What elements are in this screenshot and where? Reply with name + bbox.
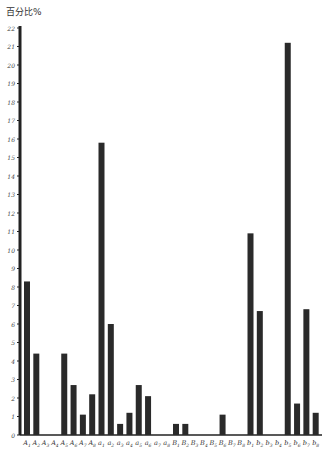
y-tick-label: 5 [11, 339, 15, 346]
x-tick-label: B3 [190, 439, 199, 448]
x-tick-label: B8 [236, 439, 245, 448]
y-tick-label: 16 [7, 136, 15, 143]
y-tick-label: 13 [7, 191, 15, 198]
y-tick-label: 15 [7, 154, 15, 161]
x-tick-label: a8 [163, 439, 170, 448]
bar-A6 [71, 385, 77, 435]
y-tick-label: 7 [11, 302, 15, 309]
x-tick-label: a4 [126, 439, 133, 448]
bar-a4 [126, 413, 132, 435]
x-tick-label: a2 [107, 439, 114, 448]
x-tick-label: A4 [50, 439, 59, 448]
bar-B6 [220, 415, 226, 435]
y-tick-label: 18 [7, 99, 15, 106]
x-tick-label: A8 [87, 439, 96, 448]
bar-B1 [173, 424, 179, 435]
x-tick-label: B7 [227, 439, 236, 448]
x-tick-label: b8 [312, 439, 319, 448]
x-tick-label: B6 [218, 439, 227, 448]
x-tick-label: A7 [78, 439, 87, 448]
y-tick-label: 10 [7, 247, 15, 254]
bar-A1 [24, 281, 30, 435]
y-tick-label: 1 [11, 413, 15, 420]
y-tick-label: 21 [6, 43, 15, 50]
y-tick-label: 20 [6, 62, 15, 69]
x-tick-label: A2 [32, 439, 41, 448]
bar-b8 [313, 413, 319, 435]
x-tick-label: b1 [247, 439, 254, 448]
bar-A7 [80, 415, 86, 435]
bar-b5 [285, 43, 291, 435]
bar-b7 [303, 309, 309, 435]
x-tick-label: b3 [266, 439, 273, 448]
x-tick-label: A5 [59, 439, 68, 448]
x-tick-label: A3 [41, 439, 50, 448]
x-tick-label: A1 [22, 439, 31, 448]
x-tick-label: a6 [145, 439, 152, 448]
bar-b1 [248, 233, 254, 435]
x-tick-label: B4 [199, 439, 208, 448]
x-tick-label: a5 [135, 439, 142, 448]
y-tick-label: 4 [10, 358, 15, 365]
bar-A5 [61, 354, 67, 435]
bar-chart: 012345678910111213141516171819202122A1A2… [0, 0, 329, 455]
x-tick-label: a1 [98, 439, 105, 448]
y-tick-label: 9 [11, 265, 15, 272]
x-tick-label: b7 [303, 439, 310, 448]
y-tick-label: 0 [11, 432, 15, 439]
bar-A2 [33, 354, 39, 435]
y-tick-label: 22 [6, 25, 15, 32]
x-tick-label: b6 [294, 439, 301, 448]
bar-b6 [294, 404, 300, 435]
y-tick-label: 17 [7, 117, 15, 124]
x-tick-label: b4 [275, 439, 282, 448]
x-tick-label: a3 [117, 439, 124, 448]
bar-A8 [89, 394, 95, 435]
y-tick-label: 6 [11, 321, 15, 328]
x-tick-label: B1 [171, 439, 180, 448]
x-tick-label: b5 [284, 439, 291, 448]
bar-b2 [257, 311, 263, 435]
y-tick-label: 3 [11, 376, 15, 383]
bar-a3 [117, 424, 123, 435]
x-tick-label: B5 [208, 439, 217, 448]
y-tick-label: 12 [7, 210, 15, 217]
bar-B2 [182, 424, 188, 435]
y-tick-label: 14 [7, 173, 15, 180]
y-tick-label: 8 [11, 284, 15, 291]
bar-a6 [145, 396, 151, 435]
x-tick-label: a7 [154, 439, 161, 448]
y-tick-label: 2 [10, 395, 15, 402]
bar-a2 [108, 324, 114, 435]
x-tick-label: B2 [180, 439, 189, 448]
y-tick-label: 11 [7, 228, 15, 235]
y-tick-label: 19 [7, 80, 15, 87]
x-tick-label: b2 [256, 439, 263, 448]
bar-a5 [136, 385, 142, 435]
x-tick-label: A6 [69, 439, 78, 448]
bar-a1 [99, 143, 105, 435]
